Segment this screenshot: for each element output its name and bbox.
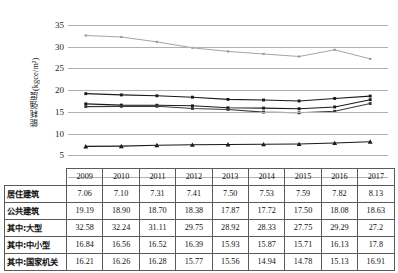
data-point bbox=[85, 34, 87, 36]
table-row: 其中:国家机关16.2116.2616.2815.7715.5614.9414.… bbox=[5, 254, 395, 271]
data-point bbox=[191, 96, 194, 99]
data-point bbox=[334, 49, 336, 51]
table-cell: 15.93 bbox=[212, 237, 248, 254]
table-col-header-2012: 2012 bbox=[176, 169, 212, 186]
table-cell: 16.39 bbox=[176, 237, 212, 254]
table-header-row: 200920102011201220132014201520162017 bbox=[5, 169, 395, 186]
gridline-30 bbox=[68, 47, 388, 48]
data-point bbox=[298, 107, 301, 110]
table-cell: 16.28 bbox=[139, 254, 175, 271]
table-cell: 7.59 bbox=[285, 186, 321, 203]
gridline-15 bbox=[68, 112, 388, 113]
table-cell: 18.90 bbox=[103, 203, 139, 220]
table-cell: 27.75 bbox=[285, 220, 321, 237]
table-cell: 7.06 bbox=[67, 186, 103, 203]
table-cell: 16.21 bbox=[67, 254, 103, 271]
table-cell: 29.75 bbox=[176, 220, 212, 237]
data-point bbox=[120, 36, 122, 38]
y-tick-15: 15 bbox=[42, 108, 64, 117]
data-point bbox=[227, 50, 229, 52]
table-cell: 18.08 bbox=[321, 203, 357, 220]
table-row-label: 其中:国家机关 bbox=[5, 254, 67, 271]
data-point bbox=[84, 92, 87, 95]
table-row-label: 其中:中小型 bbox=[5, 237, 67, 254]
table-row-label: 公共建筑 bbox=[5, 203, 67, 220]
data-point bbox=[333, 106, 336, 109]
table-row: 居住建筑7.067.107.317.417.507.537.597.828.13 bbox=[5, 186, 395, 203]
data-point bbox=[155, 105, 158, 108]
table-cell: 32.24 bbox=[103, 220, 139, 237]
table-cell: 7.50 bbox=[212, 186, 248, 203]
table-cell: 17.87 bbox=[212, 203, 248, 220]
data-point bbox=[156, 41, 158, 43]
table-cell: 28.92 bbox=[212, 220, 248, 237]
data-point bbox=[227, 108, 230, 111]
table-cell: 16.13 bbox=[321, 237, 357, 254]
table-cell: 7.31 bbox=[139, 186, 175, 203]
table-cell: 8.13 bbox=[358, 186, 394, 203]
table-cell: 15.13 bbox=[321, 254, 357, 271]
y-axis-title: 能耗强度(kgce/m²) bbox=[27, 36, 43, 148]
y-tick-20: 20 bbox=[42, 86, 64, 95]
table-col-header-2014: 2014 bbox=[248, 169, 284, 186]
table-cell: 27.2 bbox=[358, 220, 394, 237]
data-point bbox=[262, 107, 265, 110]
table-col-header-2013: 2013 bbox=[212, 169, 248, 186]
table-col-header-2017: 2017 bbox=[358, 169, 394, 186]
data-table: 200920102011201220132014201520162017 居住建… bbox=[4, 168, 395, 271]
table-cell: 15.71 bbox=[285, 237, 321, 254]
series-1 bbox=[84, 92, 371, 102]
table-cell: 15.56 bbox=[212, 254, 248, 271]
gridline-5 bbox=[68, 155, 388, 156]
series-layer bbox=[68, 25, 388, 177]
data-point bbox=[369, 58, 371, 60]
data-point bbox=[84, 105, 87, 108]
data-point bbox=[227, 98, 230, 101]
table-corner-cell bbox=[5, 169, 67, 186]
table-cell: 16.91 bbox=[358, 254, 394, 271]
y-tick-25: 25 bbox=[42, 64, 64, 73]
table-cell: 28.33 bbox=[248, 220, 284, 237]
data-point bbox=[191, 104, 194, 107]
table-cell: 17.8 bbox=[358, 237, 394, 254]
table-row-label: 居住建筑 bbox=[5, 186, 67, 203]
table-cell: 17.50 bbox=[285, 203, 321, 220]
table-cell: 14.94 bbox=[248, 254, 284, 271]
data-point bbox=[155, 94, 158, 97]
table-col-header-2011: 2011 bbox=[139, 169, 175, 186]
gridline-35 bbox=[68, 25, 388, 26]
table-cell: 7.41 bbox=[176, 186, 212, 203]
table-cell: 32.58 bbox=[67, 220, 103, 237]
table-cell: 16.26 bbox=[103, 254, 139, 271]
data-point bbox=[333, 97, 336, 100]
data-point bbox=[369, 95, 372, 98]
table-cell: 15.77 bbox=[176, 254, 212, 271]
y-tick-30: 30 bbox=[42, 43, 64, 52]
table-cell: 29.29 bbox=[321, 220, 357, 237]
table-col-header-2016: 2016 bbox=[321, 169, 357, 186]
table-cell: 7.82 bbox=[321, 186, 357, 203]
table-col-header-2010: 2010 bbox=[103, 169, 139, 186]
table-col-header-2009: 2009 bbox=[67, 169, 103, 186]
table-cell: 16.84 bbox=[67, 237, 103, 254]
data-point bbox=[298, 100, 301, 103]
table-cell: 19.19 bbox=[67, 203, 103, 220]
table-row: 其中:大型32.5832.2431.1129.7528.9228.3327.75… bbox=[5, 220, 395, 237]
table-cell: 18.63 bbox=[358, 203, 394, 220]
table-cell: 15.87 bbox=[248, 237, 284, 254]
table-row: 公共建筑19.1918.9018.7018.3817.8717.7217.501… bbox=[5, 203, 395, 220]
table-cell: 16.56 bbox=[103, 237, 139, 254]
y-tick-5: 5 bbox=[42, 151, 64, 160]
data-point bbox=[369, 98, 372, 101]
data-point bbox=[262, 99, 265, 102]
gridline-20 bbox=[68, 90, 388, 91]
table-cell: 14.78 bbox=[285, 254, 321, 271]
data-point bbox=[262, 53, 264, 55]
plot-area: 3530252015105 bbox=[68, 25, 388, 177]
gridline-25 bbox=[68, 68, 388, 69]
series-0 bbox=[83, 139, 372, 148]
table-cell: 17.72 bbox=[248, 203, 284, 220]
table-row: 其中:中小型16.8416.5616.5216.3915.9315.8715.7… bbox=[5, 237, 395, 254]
table-cell: 16.52 bbox=[139, 237, 175, 254]
table-cell: 7.53 bbox=[248, 186, 284, 203]
